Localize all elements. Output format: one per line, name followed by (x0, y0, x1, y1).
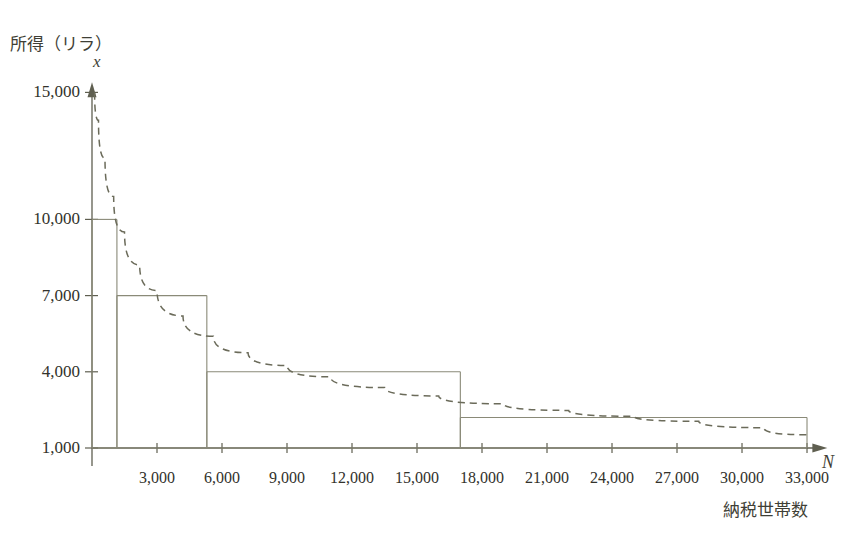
plot-area (0, 0, 860, 547)
y-tick-label: 15,000 (2, 83, 80, 100)
x-tick-label: 24,000 (590, 470, 634, 486)
tick-marks-group (85, 92, 807, 453)
x-tick-label: 15,000 (395, 470, 439, 486)
x-tick-label: 27,000 (655, 470, 699, 486)
y-tick-label: 1,000 (2, 439, 80, 456)
step-bar (117, 296, 207, 448)
step-bar (92, 219, 117, 448)
x-tick-label: 12,000 (330, 470, 374, 486)
x-tick-label: 9,000 (269, 470, 305, 486)
y-tick-label: 7,000 (2, 287, 80, 304)
x-tick-label: 6,000 (204, 470, 240, 486)
step-series-group (92, 219, 807, 448)
chart-figure: 所得（リラ） x N 納税世帯数 15,00010,0007,0004,0001… (0, 0, 860, 547)
y-tick-label: 10,000 (2, 210, 80, 227)
y-tick-label: 4,000 (2, 363, 80, 380)
x-tick-label: 21,000 (525, 470, 569, 486)
x-tick-label: 33,000 (785, 470, 829, 486)
curve-series-group (95, 92, 807, 434)
x-tick-label: 30,000 (720, 470, 764, 486)
step-bar (460, 418, 807, 448)
step-bar (207, 372, 461, 448)
axes-group (88, 82, 828, 466)
x-tick-label: 18,000 (460, 470, 504, 486)
x-tick-label: 3,000 (139, 470, 175, 486)
theoretical-curve (95, 92, 807, 434)
x-axis-arrowhead-icon (812, 444, 827, 453)
